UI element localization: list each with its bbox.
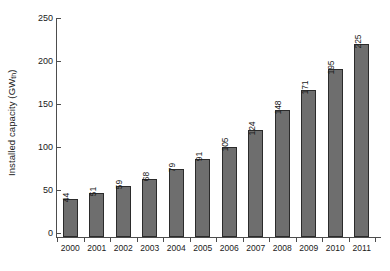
bar: 148 [275, 110, 290, 237]
bar-value-label: 195 [327, 60, 336, 74]
bar: 59 [116, 186, 131, 237]
x-axis-tick-mark [349, 238, 350, 242]
y-axis-tick-mark [57, 18, 61, 19]
x-axis-tick-label: 2006 [216, 244, 243, 253]
bar-slot: 148 [269, 22, 296, 237]
bar: 51 [89, 193, 104, 237]
bar-slot: 59 [110, 22, 137, 237]
bar-value-label: 44 [62, 192, 71, 201]
x-axis-tick-label: 2007 [243, 244, 270, 253]
x-axis-tick-mark [243, 238, 244, 242]
bar-value-label: 51 [88, 186, 97, 195]
bar-value-label: 105 [221, 138, 230, 152]
y-axis-title-tail: ) [5, 69, 16, 72]
bar-slot: 124 [243, 22, 270, 237]
x-axis-tick-label: 2005 [190, 244, 217, 253]
x-axis-tick-mark [375, 238, 376, 242]
y-axis-title-subscript: th [10, 72, 17, 78]
x-axis-tick-label: 2004 [163, 244, 190, 253]
bar: 105 [222, 147, 237, 237]
x-axis-tick-label: 2003 [137, 244, 164, 253]
bar-value-label: 171 [300, 81, 309, 95]
y-axis-title-main: Installed capacity (GW [5, 79, 16, 176]
bar: 68 [142, 179, 157, 237]
x-axis-tick-mark [296, 238, 297, 242]
bar-slot: 51 [84, 22, 111, 237]
bar: 124 [248, 130, 263, 237]
bar-value-label: 91 [194, 152, 203, 161]
bar: 195 [328, 69, 343, 237]
bar-value-label: 68 [141, 172, 150, 181]
bar: 91 [195, 159, 210, 237]
bar-value-label: 79 [168, 162, 177, 171]
x-axis-tick-mark [57, 238, 58, 242]
bar-value-label: 148 [274, 101, 283, 115]
bar-slot: 105 [216, 22, 243, 237]
bar-value-label: 59 [115, 180, 124, 189]
bar-slot: 225 [349, 22, 376, 237]
bar-slot: 44 [57, 22, 84, 237]
bar: 79 [169, 169, 184, 237]
bar-slot: 171 [296, 22, 323, 237]
bar-value-label: 225 [353, 34, 362, 48]
x-axis-labels: 2000200120022003200420052006200720082009… [57, 244, 375, 253]
plot-area: 050100150200250 445159687991105124148171… [57, 22, 375, 237]
bar-value-label: 124 [247, 121, 256, 135]
x-axis-tick-label: 2002 [110, 244, 137, 253]
y-axis-title-text: Installed capacity (GWth) [5, 69, 17, 176]
bar-slot: 195 [322, 22, 349, 237]
bar-slot: 68 [137, 22, 164, 237]
y-axis-tick-label: 100 [38, 143, 57, 152]
x-axis-tick-label: 2008 [269, 244, 296, 253]
x-axis-tick-mark [322, 238, 323, 242]
y-axis-tick-label: 200 [38, 57, 57, 66]
y-axis-title: Installed capacity (GWth) [0, 0, 22, 245]
bar: 171 [301, 90, 316, 237]
y-axis-tick-label: 150 [38, 100, 57, 109]
bar-series: 445159687991105124148171195225 [57, 22, 375, 237]
x-axis-tick-mark [137, 238, 138, 242]
x-axis-tick-label: 2010 [322, 244, 349, 253]
x-axis-tick-mark [110, 238, 111, 242]
x-axis-tick-mark [269, 238, 270, 242]
y-axis-tick-label: 50 [43, 186, 57, 195]
x-axis-tick-mark [163, 238, 164, 242]
y-axis-tick-label: 0 [48, 229, 57, 238]
bar-slot: 91 [190, 22, 217, 237]
x-axis-tick-mark [216, 238, 217, 242]
bar: 44 [63, 199, 78, 237]
x-axis-tick-label: 2009 [296, 244, 323, 253]
y-axis-tick-label: 250 [38, 14, 57, 23]
bar: 225 [354, 44, 369, 238]
x-axis-tick-mark [84, 238, 85, 242]
bar-slot: 79 [163, 22, 190, 237]
x-axis-tick-label: 2001 [84, 244, 111, 253]
bar-chart: Installed capacity (GWth) 05010015020025… [0, 0, 390, 271]
x-axis-ticks [56, 238, 381, 242]
x-axis-tick-mark [190, 238, 191, 242]
x-axis-tick-label: 2000 [57, 244, 84, 253]
x-axis-tick-label: 2011 [349, 244, 376, 253]
